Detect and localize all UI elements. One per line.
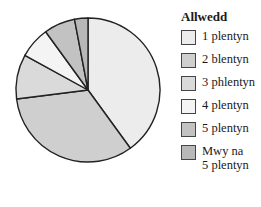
legend-title: Allwedd (181, 9, 261, 25)
pie-chart (0, 0, 180, 180)
legend-item-4-children: 4 plentyn (181, 98, 261, 121)
legend-item-5-children: 5 plentyn (181, 121, 261, 144)
legend-label: Mwy na 5 plentyn (202, 144, 249, 172)
legend-swatch (181, 122, 196, 137)
legend-label: 2 blentyn (202, 52, 249, 66)
legend-swatch (181, 30, 196, 45)
legend-swatch (181, 99, 196, 114)
legend: Allwedd 1 plentyn 2 blentyn 3 phlentyn 4… (181, 9, 261, 176)
legend-swatch (181, 145, 196, 160)
legend-label: 3 phlentyn (202, 75, 255, 89)
legend-swatch (181, 53, 196, 68)
legend-swatch (181, 76, 196, 91)
legend-item-1-child: 1 plentyn (181, 29, 261, 52)
legend-label: 1 plentyn (202, 29, 249, 43)
legend-item-more-than-5: Mwy na 5 plentyn (181, 144, 261, 176)
legend-label: 4 plentyn (202, 98, 249, 112)
legend-label: 5 plentyn (202, 121, 249, 135)
legend-item-3-children: 3 phlentyn (181, 75, 261, 98)
legend-item-2-children: 2 blentyn (181, 52, 261, 75)
